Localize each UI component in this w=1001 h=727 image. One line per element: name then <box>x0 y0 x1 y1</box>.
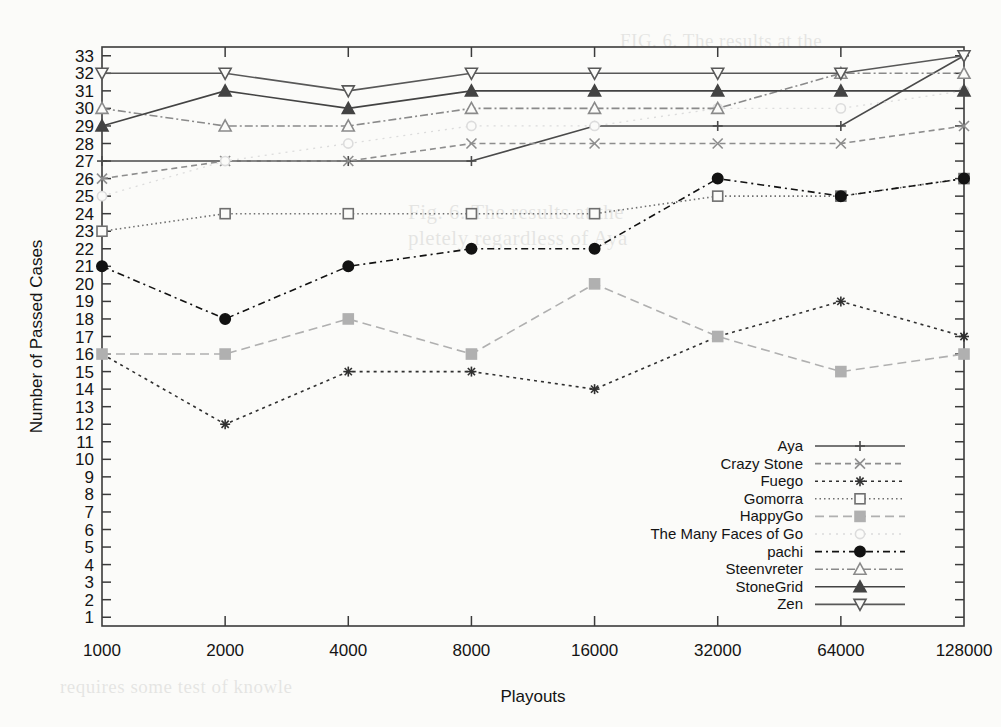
data-point-marker <box>343 367 353 377</box>
series-line <box>102 56 964 91</box>
data-point-marker <box>343 314 353 324</box>
y-tick-label: 27 <box>75 152 94 171</box>
data-point-marker <box>959 332 969 342</box>
data-point-marker <box>466 244 476 254</box>
data-point-marker <box>589 244 599 254</box>
y-tick-label: 19 <box>75 292 94 311</box>
data-point-marker <box>590 279 600 289</box>
legend-label-gomorra: Gomorra <box>744 490 804 507</box>
y-tick-label: 23 <box>75 222 94 241</box>
legend-label-crazy-stone: Crazy Stone <box>720 455 803 472</box>
legend-label-fuego: Fuego <box>760 472 803 489</box>
data-point-marker <box>219 85 231 96</box>
y-tick-label: 2 <box>85 591 94 610</box>
x-tick-label: 32000 <box>694 641 741 660</box>
y-tick-label: 4 <box>85 556 94 575</box>
data-point-marker <box>343 261 353 271</box>
y-tick-label: 33 <box>75 47 94 66</box>
data-point-marker <box>343 209 353 219</box>
legend-label-zen: Zen <box>777 595 803 612</box>
series-line <box>102 179 964 319</box>
y-tick-label: 15 <box>75 363 94 382</box>
y-tick-label: 16 <box>75 345 94 364</box>
y-tick-label: 32 <box>75 64 94 83</box>
data-point-marker <box>466 209 476 219</box>
data-point-marker <box>97 261 107 271</box>
legend-label-stonegrid: StoneGrid <box>735 578 803 595</box>
data-point-marker <box>220 314 230 324</box>
data-point-marker <box>855 511 865 521</box>
data-point-marker <box>590 209 600 219</box>
x-tick-label: 2000 <box>206 641 244 660</box>
legend-label-aya: Aya <box>777 437 803 454</box>
data-point-marker <box>836 296 846 306</box>
chart-figure: Fig. 6. The results at the pletely regar… <box>0 0 1001 727</box>
series-happygo <box>97 279 969 377</box>
y-tick-label: 5 <box>85 538 94 557</box>
series-line <box>102 73 964 126</box>
y-tick-label: 1 <box>85 608 94 627</box>
y-tick-label: 12 <box>75 415 94 434</box>
y-tick-label: 28 <box>75 135 94 154</box>
y-tick-label: 17 <box>75 328 94 347</box>
plot-frame <box>102 47 964 626</box>
data-point-marker <box>855 494 865 504</box>
data-point-marker <box>959 349 969 359</box>
data-point-marker <box>855 529 864 538</box>
data-point-marker <box>855 441 865 451</box>
data-point-marker <box>97 226 107 236</box>
data-point-marker <box>713 191 723 201</box>
series-gomorra <box>97 174 969 237</box>
y-tick-label: 14 <box>75 380 94 399</box>
y-tick-label: 22 <box>75 240 94 259</box>
x-tick-label: 16000 <box>571 641 618 660</box>
y-tick-label: 10 <box>75 450 94 469</box>
y-tick-label: 18 <box>75 310 94 329</box>
x-tick-label: 64000 <box>817 641 864 660</box>
data-point-marker <box>590 384 600 394</box>
x-tick-label: 4000 <box>329 641 367 660</box>
y-tick-label: 25 <box>75 187 94 206</box>
data-point-marker <box>590 121 599 130</box>
y-tick-label: 7 <box>85 503 94 522</box>
data-point-marker <box>836 191 846 201</box>
data-point-marker <box>220 419 230 429</box>
data-point-marker <box>836 121 846 131</box>
y-tick-label: 20 <box>75 275 94 294</box>
data-point-marker <box>97 192 106 201</box>
y-tick-label: 11 <box>76 433 94 452</box>
data-point-marker <box>836 367 846 377</box>
y-tick-label: 24 <box>75 205 94 224</box>
x-tick-label: 128000 <box>936 641 993 660</box>
data-point-marker <box>221 156 230 165</box>
data-point-marker <box>836 104 845 113</box>
y-tick-label: 13 <box>75 398 94 417</box>
y-tick-label: 21 <box>75 257 94 276</box>
legend-label-happygo: HappyGo <box>740 507 803 524</box>
y-tick-label: 9 <box>85 468 94 487</box>
legend-label-the-many-faces-of-go: The Many Faces of Go <box>650 525 803 542</box>
data-point-marker <box>466 156 476 166</box>
y-tick-label: 3 <box>85 573 94 592</box>
data-point-marker <box>97 156 107 166</box>
data-point-marker <box>959 173 969 183</box>
y-tick-label: 8 <box>85 485 94 504</box>
y-tick-label: 26 <box>75 170 94 189</box>
data-point-marker <box>855 546 865 556</box>
series-line <box>102 284 964 372</box>
data-point-marker <box>220 349 230 359</box>
legend-label-pachi: pachi <box>767 543 803 560</box>
data-point-marker <box>465 102 477 113</box>
x-axis-title: Playouts <box>500 687 565 706</box>
data-point-marker <box>220 209 230 219</box>
data-point-marker <box>713 173 723 183</box>
y-tick-label: 6 <box>85 521 94 540</box>
data-point-marker <box>97 349 107 359</box>
data-point-marker <box>713 121 723 131</box>
legend-label-steenvreter: Steenvreter <box>725 560 803 577</box>
data-point-marker <box>713 332 723 342</box>
y-tick-label: 31 <box>75 82 94 101</box>
x-tick-label: 1000 <box>83 641 121 660</box>
series-line <box>102 179 964 232</box>
data-point-marker <box>855 476 865 486</box>
